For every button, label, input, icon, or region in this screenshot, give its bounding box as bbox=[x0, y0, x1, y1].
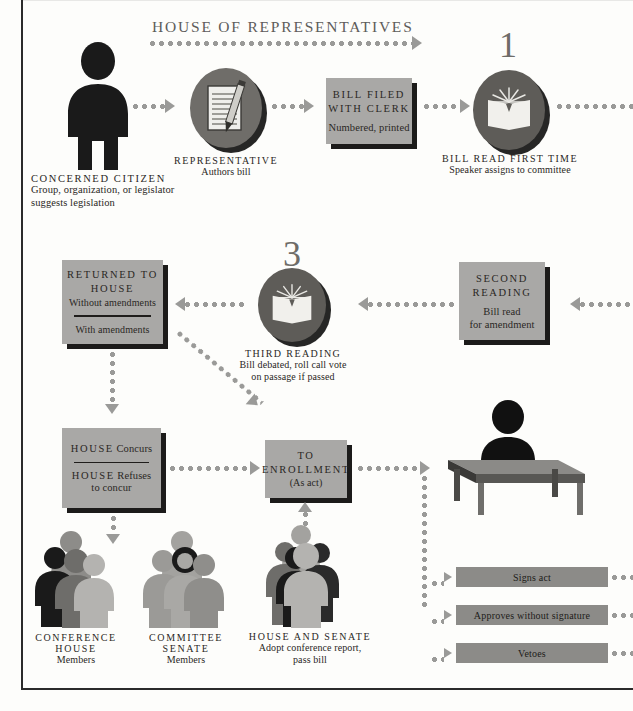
house-and-senate-line-3: pass bill bbox=[236, 654, 384, 666]
frame-top-edge bbox=[21, 0, 633, 1]
returned-option-with: With amendments bbox=[75, 323, 149, 336]
enrollment-detail: (As act) bbox=[290, 477, 323, 489]
returned-option-without: Without amendments bbox=[69, 296, 156, 309]
connector-enrollment-to-governor bbox=[358, 466, 420, 471]
house-and-senate-caption: HOUSE AND SENATE Adopt conference report… bbox=[236, 631, 384, 666]
house-concur-b-line2: to concur bbox=[91, 482, 131, 494]
connector-enrollment-to-governor-arrowhead bbox=[420, 461, 430, 475]
returned-title-1: RETURNED TO bbox=[67, 268, 158, 282]
house-concur-b-strong: HOUSE bbox=[72, 470, 115, 481]
connector-second-to-third bbox=[368, 302, 454, 307]
house-concur-option-a: HOUSE Concurs bbox=[71, 442, 152, 456]
connector-rep-to-filed bbox=[272, 104, 304, 109]
third-reading-label: THIRD READING bbox=[222, 348, 364, 359]
house-concur-b-rest: Refuses bbox=[117, 470, 151, 481]
connector-offpage-to-second-reading-arrowhead bbox=[570, 297, 580, 311]
connector-offpage-to-second-reading bbox=[580, 302, 633, 307]
connector-approves-stub bbox=[432, 613, 444, 624]
connector-returned-diagonal-arrowhead bbox=[246, 393, 263, 410]
second-reading-detail-2: for amendment bbox=[469, 318, 534, 331]
first-reading-label: BILL READ FIRST TIME bbox=[441, 153, 579, 164]
committee-senate-caption: COMMITTEE SENATE Members bbox=[128, 632, 244, 665]
connector-citizen-to-rep bbox=[133, 104, 165, 109]
conference-house-line-1: CONFERENCE bbox=[18, 632, 134, 643]
committee-senate-line-2: SENATE bbox=[128, 643, 244, 654]
connector-rep-to-filed-arrowhead bbox=[304, 99, 314, 113]
representative-caption: REPRESENTATIVE Authors bill bbox=[166, 155, 286, 178]
citizen-caption: CONCERNED CITIZEN Group, organization, o… bbox=[31, 173, 231, 209]
bill-filed-detail: Numbered, printed bbox=[328, 121, 409, 134]
representative-medallion bbox=[190, 68, 262, 148]
connector-third-to-returned-arrowhead bbox=[175, 297, 185, 311]
person-icon bbox=[60, 42, 136, 176]
house-concur-a-rest: Concurs bbox=[116, 443, 152, 454]
connector-concur-to-enrollment bbox=[170, 466, 250, 471]
third-reading-caption: THIRD READING Bill debated, roll call vo… bbox=[222, 348, 364, 383]
people-group-icon bbox=[263, 522, 349, 632]
committee-senate-line-1: COMMITTEE bbox=[128, 632, 244, 643]
house-and-senate-line-2: Adopt conference report, bbox=[236, 642, 384, 654]
connector-approves-arrowhead bbox=[444, 610, 452, 620]
returned-title-2: HOUSE bbox=[91, 282, 135, 296]
people-group-icon bbox=[33, 528, 119, 632]
bill-filed-title-2: WITH CLERK bbox=[328, 102, 409, 116]
connector-approves-offpage bbox=[612, 613, 633, 618]
bill-filed-title-1: BILL FILED bbox=[333, 88, 405, 102]
third-reading-medallion bbox=[258, 268, 326, 342]
connector-third-to-returned bbox=[185, 302, 247, 307]
second-reading-plaque: SECOND READING Bill read for amendment bbox=[459, 262, 545, 340]
enrollment-title-1: TO bbox=[297, 449, 314, 463]
first-reading-medallion bbox=[473, 70, 545, 150]
third-reading-detail-2: on passage if passed bbox=[222, 371, 364, 383]
second-reading-title-2: READING bbox=[472, 286, 531, 300]
representative-detail: Authors bill bbox=[166, 166, 286, 178]
second-reading-title-1: SECOND bbox=[476, 272, 528, 286]
bill-filed-plaque: BILL FILED WITH CLERK Numbered, printed bbox=[326, 78, 412, 144]
governor-action-vetoes: Vetoes bbox=[456, 643, 608, 663]
connector-signs-arrowhead bbox=[444, 572, 452, 582]
connector-signs-offpage bbox=[612, 575, 633, 580]
connector-filed-to-first-reading bbox=[424, 104, 460, 109]
connector-signs-stub bbox=[432, 575, 444, 586]
connector-returned-to-concur bbox=[110, 352, 115, 404]
house-concur-a-strong: HOUSE bbox=[71, 443, 114, 454]
connector-second-to-third-arrowhead bbox=[358, 297, 368, 311]
returned-divider bbox=[74, 315, 151, 317]
frame-left-edge bbox=[21, 0, 23, 690]
step-number-3: 3 bbox=[272, 236, 312, 272]
second-reading-detail-1: Bill read bbox=[483, 305, 520, 318]
governor-action-approves: Approves without signature bbox=[456, 605, 608, 625]
house-concur-divider bbox=[74, 462, 149, 464]
notepad-pencil-icon bbox=[199, 78, 253, 138]
step-number-1: 1 bbox=[488, 27, 528, 63]
person-at-desk-icon bbox=[440, 398, 590, 522]
conference-house-caption: CONFERENCE HOUSE Members bbox=[18, 632, 134, 665]
connector-housesenate-to-enrollment-arrowhead bbox=[298, 502, 312, 512]
frame-bottom-edge bbox=[21, 688, 633, 690]
to-enrollment-plaque: TO ENROLLMENT (As act) bbox=[265, 440, 347, 498]
third-reading-detail-1: Bill debated, roll call vote bbox=[222, 359, 364, 371]
open-book-icon bbox=[269, 282, 315, 328]
diagram-canvas: HOUSE OF REPRESENTATIVES CONCERNED CITIZ… bbox=[0, 0, 633, 711]
house-concur-option-b: HOUSE Refuses bbox=[72, 469, 152, 482]
connector-governor-trunk bbox=[422, 476, 427, 608]
open-book-icon bbox=[484, 86, 534, 134]
governor-action-signs: Signs act bbox=[456, 567, 608, 587]
connector-filed-to-first-reading-arrowhead bbox=[460, 99, 470, 113]
house-and-senate-line-1: HOUSE AND SENATE bbox=[236, 631, 384, 642]
citizen-detail-2: suggests legislation bbox=[31, 197, 231, 210]
connector-vetoes-stub bbox=[432, 651, 444, 662]
representative-label: REPRESENTATIVE bbox=[166, 155, 286, 166]
committee-senate-line-3: Members bbox=[128, 654, 244, 665]
first-reading-detail: Speaker assigns to committee bbox=[441, 164, 579, 176]
people-group-icon bbox=[142, 528, 228, 632]
first-reading-caption: BILL READ FIRST TIME Speaker assigns to … bbox=[441, 153, 579, 176]
conference-house-line-2: HOUSE bbox=[18, 643, 134, 654]
citizen-detail-1: Group, organization, or legislator bbox=[31, 184, 231, 197]
returned-to-house-plaque: RETURNED TO HOUSE Without amendments Wit… bbox=[62, 260, 163, 344]
connector-vetoes-offpage bbox=[612, 651, 633, 656]
connector-first-reading-offpage bbox=[557, 104, 633, 109]
connector-returned-to-concur-arrowhead bbox=[105, 404, 119, 414]
connector-header-dotted bbox=[150, 41, 412, 46]
house-concur-plaque: HOUSE Concurs HOUSE Refuses to concur bbox=[62, 428, 161, 508]
